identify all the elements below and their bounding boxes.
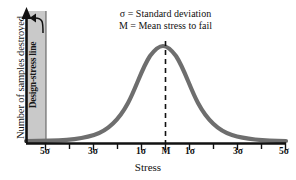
design-stress-line-label: Design-stress line [28, 23, 38, 127]
legend: σ = Standard deviation M = Mean stress t… [98, 8, 233, 32]
legend-item-mean: M = Mean stress to fail [98, 20, 233, 32]
x-tick-label-minus-5-sigma: 5σ [30, 146, 60, 156]
x-tick-label-plus-5-sigma: 5σ [269, 146, 296, 156]
x-tick-label-plus-1-sigma: 1σ [175, 146, 205, 156]
distribution-curve [26, 46, 286, 141]
x-tick-label-plus-3-sigma: 3σ [223, 146, 253, 156]
y-axis-title: Number of samples destroyed [15, 3, 26, 153]
x-axis-title: Stress [0, 161, 296, 173]
legend-item-sigma: σ = Standard deviation [98, 8, 233, 20]
bell-curve-figure: σ = Standard deviation M = Mean stress t… [0, 0, 296, 180]
x-tick-label-minus-3-sigma: 3σ [78, 146, 108, 156]
